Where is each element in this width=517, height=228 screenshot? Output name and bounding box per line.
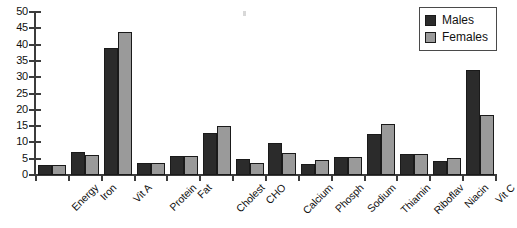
legend-label-males: Males xyxy=(442,14,474,27)
x-axis-label-iron: Iron xyxy=(98,182,118,202)
bar-females[interactable] xyxy=(381,124,395,175)
y-axis-tick-label: 40 xyxy=(0,39,28,50)
y-axis-tick-value: 35 xyxy=(2,55,28,66)
legend-item-males[interactable]: Males xyxy=(425,12,488,29)
y-axis-tick-label: 45 xyxy=(0,22,28,33)
y-axis-tick-value: 25 xyxy=(2,88,28,99)
x-axis-tick xyxy=(298,174,300,181)
x-axis-tick xyxy=(331,174,333,181)
bar-females[interactable] xyxy=(118,32,132,175)
bar-females[interactable] xyxy=(52,165,66,175)
bar-pair xyxy=(233,12,266,175)
y-axis-tick-value: 15 xyxy=(2,120,28,131)
y-axis-tick-label: 30 xyxy=(0,71,28,82)
bar-males[interactable] xyxy=(367,134,381,175)
x-axis-tick xyxy=(364,174,366,181)
bar-females[interactable] xyxy=(447,158,461,175)
bar-males[interactable] xyxy=(104,48,118,175)
bar-males[interactable] xyxy=(203,133,217,175)
bar-group xyxy=(135,12,168,175)
chart-legend: Males Females xyxy=(419,7,497,51)
y-axis-tick-value: 40 xyxy=(2,39,28,50)
x-axis-tick xyxy=(232,174,234,181)
bar-pair xyxy=(36,12,69,175)
bar-females[interactable] xyxy=(217,126,231,175)
x-axis-label-fat: Fat xyxy=(195,182,213,200)
y-axis-tick-value: 10 xyxy=(2,136,28,147)
y-axis-tick-label: 15 xyxy=(0,120,28,131)
y-axis-tick-value: 0 xyxy=(2,169,28,180)
x-axis-label-riboflav: Riboflav xyxy=(432,182,466,216)
bar-females[interactable] xyxy=(184,156,198,175)
bar-males[interactable] xyxy=(170,156,184,175)
bar-females[interactable] xyxy=(348,157,362,175)
x-axis-tick xyxy=(35,174,37,181)
bar-females[interactable] xyxy=(282,153,296,175)
x-axis-label-thiamin: Thiamin xyxy=(399,182,433,216)
x-axis-tick xyxy=(68,174,70,181)
y-axis-tick-label: 10 xyxy=(0,136,28,147)
legend-label-females: Females xyxy=(442,31,488,44)
bar-group xyxy=(69,12,102,175)
bar-males[interactable] xyxy=(236,159,250,175)
bar-males[interactable] xyxy=(433,161,447,175)
bar-females[interactable] xyxy=(250,163,264,175)
bar-group xyxy=(36,12,69,175)
legend-item-females[interactable]: Females xyxy=(425,29,488,46)
y-axis-tick-value: 5 xyxy=(2,153,28,164)
y-axis-tick-label: 5 xyxy=(0,153,28,164)
bar-pair xyxy=(365,12,398,175)
bar-group xyxy=(299,12,332,175)
bar-pair xyxy=(200,12,233,175)
bar-females[interactable] xyxy=(151,163,165,175)
x-axis-label-cholest: Cholest xyxy=(234,182,266,214)
x-axis-tick xyxy=(101,174,103,181)
bar-males[interactable] xyxy=(400,154,414,175)
x-axis-label-cho: CHO xyxy=(264,182,288,206)
y-axis-tick-value: 30 xyxy=(2,71,28,82)
bar-group xyxy=(167,12,200,175)
bar-males[interactable] xyxy=(334,157,348,175)
y-axis-tick-label: 35 xyxy=(0,55,28,66)
x-axis-tick xyxy=(495,174,497,181)
bar-males[interactable] xyxy=(137,163,151,175)
x-axis-label-phosph: Phosph xyxy=(333,182,366,215)
bar-pair xyxy=(167,12,200,175)
scan-artifact-speck xyxy=(243,11,246,16)
bar-group xyxy=(266,12,299,175)
y-axis-tick-label: 20 xyxy=(0,104,28,115)
bar-pair xyxy=(69,12,102,175)
bar-group xyxy=(332,12,365,175)
y-axis-tick-label: 50 xyxy=(0,6,28,17)
y-axis-tick-value: 20 xyxy=(2,104,28,115)
bar-males[interactable] xyxy=(301,164,315,175)
bar-females[interactable] xyxy=(315,160,329,175)
bar-group xyxy=(102,12,135,175)
legend-swatch-males-icon xyxy=(425,15,436,26)
x-axis-tick xyxy=(429,174,431,181)
bar-females[interactable] xyxy=(85,155,99,175)
bar-males[interactable] xyxy=(268,143,282,175)
x-axis-label-niacin: Niacin xyxy=(462,182,490,210)
y-axis-tick-label: 0 xyxy=(0,169,28,180)
x-axis-label-calcium: Calcium xyxy=(301,182,335,216)
x-axis-label-vit-c: Vit C xyxy=(493,182,516,205)
bar-females[interactable] xyxy=(414,154,428,175)
bar-pair xyxy=(332,12,365,175)
bar-group xyxy=(365,12,398,175)
bar-females[interactable] xyxy=(480,115,494,175)
x-axis-tick xyxy=(166,174,168,181)
x-axis-tick xyxy=(134,174,136,181)
bar-pair xyxy=(102,12,135,175)
bar-males[interactable] xyxy=(71,152,85,175)
bar-group xyxy=(200,12,233,175)
x-axis-tick xyxy=(462,174,464,181)
x-axis-tick xyxy=(396,174,398,181)
bar-males[interactable] xyxy=(466,70,480,175)
x-axis-label-sodium: Sodium xyxy=(366,182,399,215)
bar-males[interactable] xyxy=(38,165,52,175)
x-axis-label-energy: Energy xyxy=(69,182,100,213)
y-axis-tick-value: 45 xyxy=(2,22,28,33)
x-axis-label-protein: Protein xyxy=(168,182,199,213)
